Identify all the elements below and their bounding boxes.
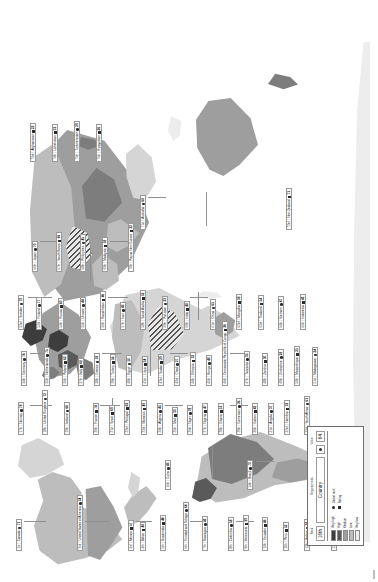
country-label[interactable]: 23rd|Morocco49 (141, 400, 147, 435)
country-label[interactable]: 24th|Algeria45 (157, 403, 163, 435)
country-label[interactable]: 44th|Ethiopia32 (190, 352, 196, 386)
country-label[interactable]: 71st|Australia68 (140, 196, 146, 231)
label-country-name: Vietnam (280, 307, 283, 318)
country-label[interactable]: 6th|Trinidad and Tobago64 (183, 502, 189, 551)
country-label[interactable]: 28th|Ghana51 (218, 403, 224, 435)
rotated-figure-wrapper: 1st|Canada712nd|United States of America… (0, 0, 378, 582)
country-label[interactable]: 43rd|Chad27 (174, 356, 180, 386)
country-label[interactable]: 74th|Uzbekistan31 (52, 124, 58, 162)
country-label[interactable]: 10th|Ecuador46 (262, 517, 268, 551)
label-rank: 63rd (260, 322, 263, 328)
country-label[interactable]: 7th|Nicaragua41 (202, 516, 208, 551)
country-label[interactable]: 4th|Belize48 (140, 522, 146, 551)
label-divider: | (176, 376, 179, 377)
rating-icon (245, 523, 248, 526)
country-label[interactable]: 48th|Zambia30 (262, 353, 268, 386)
label-value: 58 (104, 240, 107, 243)
country-label[interactable]: 14th|Brazil73 (247, 460, 253, 490)
country-label[interactable]: 45th|Kenya40 (206, 355, 212, 386)
label-divider: | (186, 320, 189, 321)
page-corner-mark (373, 570, 375, 579)
country-label[interactable]: 9th|Venezuela39 (243, 516, 249, 552)
country-label[interactable]: 5th|Guatemala44 (160, 515, 166, 551)
country-label[interactable]: 59th|Pakistan33 (162, 296, 168, 330)
label-country-name: Democratic Republic of Congo (224, 333, 227, 375)
label-value: 26 (98, 127, 101, 130)
country-label[interactable]: 18th|United Kingdom72 (42, 390, 48, 435)
country-label[interactable]: 70th|Papua New Guinea32 (128, 223, 134, 272)
country-label[interactable]: 76th|Kyrgyzstan26 (96, 124, 102, 162)
country-label[interactable]: 40th|Egypt50 (126, 355, 132, 386)
rating-icon (64, 361, 67, 364)
country-label[interactable]: 72nd|New Zealand71 (286, 188, 292, 230)
country-label[interactable]: 63rd|Thailand54 (258, 295, 264, 330)
figure-page: 1st|Canada712nd|United States of America… (0, 0, 378, 582)
country-label[interactable]: 11th|Peru52 (283, 522, 289, 551)
country-label[interactable]: 34th|Germany76 (21, 351, 27, 386)
country-label[interactable]: 16th|Cuba43 (165, 460, 171, 490)
country-label[interactable]: 73rd|Afghanistan22 (30, 123, 36, 162)
country-label[interactable]: 31st|Angola37 (268, 403, 274, 435)
legend-swatch (349, 530, 354, 541)
country-label[interactable]: 56th|Kazakhstan46 (100, 291, 106, 330)
country-label[interactable]: 49th|Zimbabwe28 (278, 349, 284, 386)
country-label[interactable]: 65th|Indonesia41 (300, 294, 306, 330)
country-label[interactable]: 67th|South Korea66 (56, 232, 62, 272)
country-label[interactable]: 66th|Japan70 (32, 241, 38, 272)
country-label[interactable]: 46th|Democratic Republic of Congo26 (222, 321, 228, 386)
rating-icon (264, 360, 267, 363)
country-label[interactable]: 8th|Colombia58 (228, 517, 234, 551)
country-label[interactable]: 20th|France74 (93, 403, 99, 435)
country-label[interactable]: 32nd|Namibia53 (284, 400, 290, 435)
country-label[interactable]: 27th|Nigeria47 (202, 403, 208, 435)
country-label[interactable]: 64th|Vietnam47 (278, 296, 284, 330)
country-label[interactable]: 53rd|Finland77 (36, 297, 42, 330)
country-label[interactable]: 17th|Norway78 (18, 402, 24, 435)
country-label[interactable]: 21st|Spain69 (109, 405, 115, 435)
country-label[interactable]: 19th|Iceland66 (64, 402, 70, 435)
label-value: 75 (46, 349, 49, 352)
legend-caption-value: Value (311, 431, 314, 451)
country-label[interactable]: 36th|Poland62 (62, 354, 68, 386)
country-label[interactable]: 62nd|Mongolia38 (236, 294, 242, 330)
country-label[interactable]: 69th|Malaysia58 (102, 237, 108, 272)
country-label[interactable]: 57th|Iran43 (120, 302, 126, 330)
label-value: 38 (238, 297, 241, 300)
country-label[interactable]: 26th|Niger31 (187, 405, 193, 435)
label-value: 33 (174, 409, 177, 412)
country-label[interactable]: 39th|Turkey56 (110, 354, 116, 386)
country-label[interactable]: 51st|Madagascar24 (312, 347, 318, 386)
country-label[interactable]: 22nd|Portugal63 (124, 400, 130, 435)
country-label[interactable]: 55th|Ukraine44 (80, 297, 86, 330)
country-label[interactable]: 38th|Greece59 (94, 353, 100, 386)
country-label[interactable]: 47th|Tanzania35 (244, 351, 250, 386)
global-rank-icon (142, 203, 145, 206)
country-label[interactable]: 60th|India48 (184, 301, 190, 330)
label-rank: 28th (220, 427, 223, 432)
country-label[interactable]: 3rd|Mexico57 (128, 520, 134, 551)
country-label[interactable]: 42nd|Sudan29 (158, 354, 164, 386)
label-rank: 25th (174, 427, 177, 432)
country-label[interactable]: 30th|Gabon42 (252, 403, 258, 435)
country-label[interactable]: 58th|Saudi Arabia52 (140, 290, 146, 330)
global-rank-icon (20, 303, 23, 306)
label-rank: 76th (98, 154, 101, 159)
rating-icon (162, 522, 165, 525)
country-label[interactable]: 75th|Turkmenistan29 (74, 121, 80, 162)
label-value: 69 (111, 407, 114, 410)
country-label[interactable]: 29th|Cameroon36 (236, 398, 242, 435)
label-divider: | (142, 220, 145, 221)
country-label[interactable]: 2nd|United States of America54 (77, 495, 83, 551)
country-label[interactable]: 54th|Russia60 (58, 298, 64, 330)
country-label[interactable]: 61st|China65 (210, 299, 216, 330)
global-rank-icon (249, 467, 252, 470)
country-label[interactable]: 50th|Mozambique25 (294, 346, 300, 386)
country-label[interactable]: 41st|Libya34 (142, 356, 148, 386)
country-label[interactable]: 68th|Philippines45 (80, 234, 86, 272)
country-label[interactable]: 52nd|Sweden79 (18, 295, 24, 330)
label-rank: 52nd (20, 321, 23, 327)
country-label[interactable]: 35th|Netherlands75 (44, 347, 50, 386)
country-label[interactable]: 37th|Italy68 (78, 358, 84, 386)
country-label[interactable]: 1st|Canada71 (16, 519, 22, 551)
country-label[interactable]: 25th|Mali33 (172, 407, 178, 435)
